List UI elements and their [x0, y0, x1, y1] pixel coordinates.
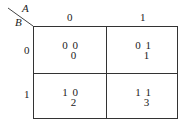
cell-index: 0 — [34, 50, 107, 61]
column-variable-label: A — [22, 3, 29, 14]
cell-11: 1 1 3 — [107, 74, 180, 120]
cell-index: 1 — [107, 50, 180, 61]
column-header-1: 1 — [140, 12, 146, 23]
column-header-0: 0 — [67, 12, 73, 23]
row-header-1: 1 — [24, 89, 30, 100]
cell-index: 2 — [34, 97, 107, 108]
cell-10: 1 0 2 — [34, 74, 107, 120]
cell-00: 0 0 0 — [34, 27, 107, 73]
row-header-0: 0 — [24, 45, 30, 56]
row-variable-label: B — [15, 17, 22, 28]
cell-01: 0 1 1 — [107, 27, 180, 73]
cell-index: 3 — [107, 97, 180, 108]
